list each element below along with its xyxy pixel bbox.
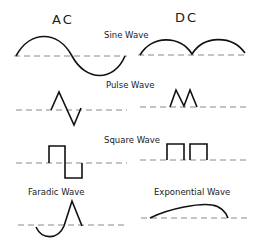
ac-sine-wave bbox=[14, 37, 127, 76]
ac-square-wave bbox=[16, 146, 127, 178]
dc-exponential-wave bbox=[141, 205, 250, 218]
ac-pulse-wave bbox=[16, 92, 127, 125]
dc-sine-wave bbox=[138, 40, 248, 55]
dc-square-wave bbox=[140, 144, 248, 160]
waveform-diagram bbox=[0, 0, 265, 247]
dc-pulse-wave bbox=[140, 90, 248, 107]
ac-faradic-wave bbox=[18, 201, 127, 237]
